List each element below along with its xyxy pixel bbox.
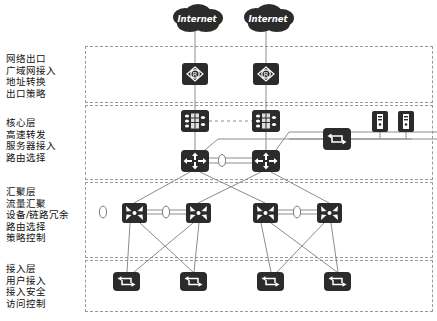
firewall-1: [181, 110, 209, 132]
svg-text:R: R: [193, 71, 198, 79]
aggregation-switch-4: [317, 203, 342, 223]
layer-label-line: 地址转换: [6, 76, 86, 88]
access-switch-2: [180, 272, 207, 291]
layer-label-line: 网络出口: [6, 53, 86, 65]
layer-label-line: 高速转发: [6, 129, 86, 141]
svg-text:R: R: [264, 71, 269, 79]
layer-label-line: 流量汇聚: [6, 198, 86, 210]
internet-cloud-1: Internet: [168, 4, 226, 34]
aggregation-switch-3: [253, 203, 278, 223]
layer-label-line: 设备/链路冗余: [6, 209, 86, 221]
server-1: [372, 111, 388, 132]
server-icon: [372, 111, 388, 132]
switch-icon: [113, 272, 140, 291]
edge-router-2: R: [253, 63, 279, 85]
layer-label-line: 访问控制: [6, 298, 86, 310]
layer3-switch-icon: [181, 150, 209, 172]
layer-label-line: 接入层: [6, 263, 86, 275]
edge-router-1: R: [182, 63, 208, 85]
layer-label-aggregation: 汇聚层 流量汇聚 设备/链路冗余 路由选择 策略控制: [6, 186, 86, 244]
network-topology-diagram: Internet Internet R: [0, 0, 437, 321]
layer-label-line: 出口策略: [6, 88, 86, 100]
layer-label-access: 接入层 用户接入 接入安全 访问控制: [6, 263, 86, 309]
aggregation-switch-icon: [253, 203, 278, 223]
switch-icon: [180, 272, 207, 291]
switch-icon: [257, 272, 284, 291]
switch-icon: [324, 272, 351, 291]
layer-label-line: 广域网接入: [6, 65, 86, 77]
access-switch-1: [113, 272, 140, 291]
layer-label-line: 服务器接入: [6, 140, 86, 152]
firewall-icon: [181, 110, 209, 132]
layer-label-line: 核心层: [6, 117, 86, 129]
layer3-switch-icon: [252, 150, 280, 172]
internet-cloud-label: Internet: [168, 4, 226, 34]
layer-label-egress: 网络出口 广域网接入 地址转换 出口策略: [6, 53, 86, 99]
aggregation-switch-icon: [186, 203, 211, 223]
server-icon: [398, 111, 414, 132]
firewall-2: [252, 110, 280, 132]
switch-icon: [323, 128, 351, 150]
access-switch-4: [324, 272, 351, 291]
layer-label-line: 路由选择: [6, 152, 86, 164]
access-switch-3: [257, 272, 284, 291]
layer-label-line: 汇聚层: [6, 186, 86, 198]
firewall-icon: [252, 110, 280, 132]
server-2: [398, 111, 414, 132]
aggregation-switch-2: [186, 203, 211, 223]
core-switch-2: [252, 150, 280, 172]
aggregation-switch-icon: [122, 203, 147, 223]
core-switch-1: [181, 150, 209, 172]
layer-label-line: 路由选择: [6, 221, 86, 233]
server-access-switch: [323, 128, 351, 150]
layer-label-line: 策略控制: [6, 232, 86, 244]
layer-label-line: 用户接入: [6, 275, 86, 287]
aggregation-switch-1: [122, 203, 147, 223]
internet-cloud-label: Internet: [239, 4, 297, 34]
router-icon: R: [253, 63, 279, 85]
layer-label-line: 接入安全: [6, 286, 86, 298]
router-icon: R: [182, 63, 208, 85]
aggregation-switch-icon: [317, 203, 342, 223]
layer-label-core: 核心层 高速转发 服务器接入 路由选择: [6, 117, 86, 163]
internet-cloud-2: Internet: [239, 4, 297, 34]
